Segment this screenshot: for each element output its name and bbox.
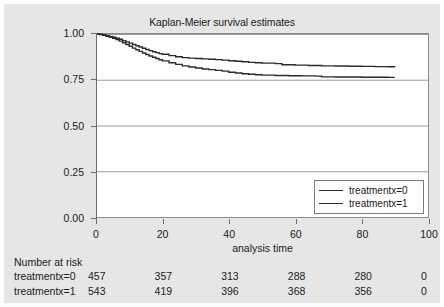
legend-label: treatmentx=1 bbox=[349, 198, 408, 209]
legend-line-icon bbox=[319, 203, 343, 204]
risk-row-value: 0 bbox=[421, 285, 444, 297]
x-axis-tick-mark bbox=[362, 219, 363, 224]
risk-row-value: 457 bbox=[88, 270, 122, 282]
risk-row-value: 396 bbox=[221, 285, 255, 297]
x-axis-tick-label: 100 bbox=[409, 228, 444, 240]
y-axis-tick-mark bbox=[91, 172, 96, 173]
x-axis-tick-label: 40 bbox=[209, 228, 249, 240]
x-axis-tick-mark bbox=[96, 219, 97, 224]
y-axis-tick-label: 0.75 bbox=[24, 73, 84, 85]
y-axis-tick-label: 0.00 bbox=[24, 212, 84, 224]
risk-table-title: Number at risk bbox=[14, 256, 440, 268]
x-axis-tick-mark bbox=[429, 219, 430, 224]
risk-table-row: treatmentx=04573573132882800 bbox=[14, 270, 440, 285]
legend[interactable]: treatmentx=0 treatmentx=1 bbox=[314, 180, 424, 214]
x-axis-tick-label: 0 bbox=[76, 228, 116, 240]
risk-table-rows: treatmentx=04573573132882800treatmentx=1… bbox=[14, 270, 440, 300]
x-axis-tick-mark bbox=[229, 219, 230, 224]
legend-item-treatmentx-0[interactable]: treatmentx=0 bbox=[319, 184, 418, 197]
survival-curve-treatmentx-1 bbox=[96, 34, 395, 67]
y-axis-tick-mark bbox=[91, 126, 96, 127]
x-axis-tick-label: 60 bbox=[276, 228, 316, 240]
graph-area: Kaplan-Meier survival estimates 0.000.25… bbox=[4, 4, 440, 303]
x-axis-tick-mark bbox=[296, 219, 297, 224]
y-axis-tick-label: 0.25 bbox=[24, 166, 84, 178]
risk-row-value: 419 bbox=[155, 285, 189, 297]
y-axis-tick-mark bbox=[91, 33, 96, 34]
risk-row-value: 0 bbox=[421, 270, 444, 282]
x-axis-tick-label: 80 bbox=[342, 228, 382, 240]
risk-table-row: treatmentx=15434193963683560 bbox=[14, 285, 440, 300]
y-axis-tick-mark bbox=[91, 79, 96, 80]
x-axis-label: analysis time bbox=[96, 242, 429, 254]
risk-row-value: 280 bbox=[354, 270, 388, 282]
risk-row-label: treatmentx=0 bbox=[14, 270, 76, 282]
screenshot-root: Kaplan-Meier survival estimates 0.000.25… bbox=[0, 0, 444, 307]
risk-row-value: 288 bbox=[288, 270, 322, 282]
y-axis-tick-label: 0.50 bbox=[24, 120, 84, 132]
legend-item-treatmentx-1[interactable]: treatmentx=1 bbox=[319, 197, 418, 210]
legend-line-icon bbox=[319, 190, 343, 191]
x-axis-tick-mark bbox=[163, 219, 164, 224]
risk-row-label: treatmentx=1 bbox=[14, 285, 76, 297]
risk-row-value: 356 bbox=[354, 285, 388, 297]
x-axis-tick-label: 20 bbox=[143, 228, 183, 240]
risk-row-value: 543 bbox=[88, 285, 122, 297]
y-axis-line bbox=[96, 33, 97, 219]
risk-table: Number at risk treatmentx=04573573132882… bbox=[14, 256, 440, 300]
legend-label: treatmentx=0 bbox=[349, 185, 408, 196]
risk-row-value: 313 bbox=[221, 270, 255, 282]
survival-curve-treatmentx-0 bbox=[96, 34, 395, 77]
risk-row-value: 368 bbox=[288, 285, 322, 297]
risk-row-value: 357 bbox=[155, 270, 189, 282]
y-axis-tick-label: 1.00 bbox=[24, 27, 84, 39]
